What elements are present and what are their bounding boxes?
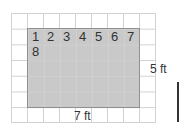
count-number: 8 <box>32 45 39 58</box>
count-number: 6 <box>111 30 118 43</box>
count-number: 3 <box>63 30 70 43</box>
count-number: 1 <box>32 30 39 43</box>
count-number: 5 <box>95 30 102 43</box>
count-number: 2 <box>47 30 54 43</box>
height-label: 5 ft <box>150 63 167 75</box>
width-label: 7 ft <box>74 110 91 122</box>
count-number: 4 <box>79 30 86 43</box>
count-number: 7 <box>127 30 134 43</box>
edge-line <box>177 82 179 122</box>
